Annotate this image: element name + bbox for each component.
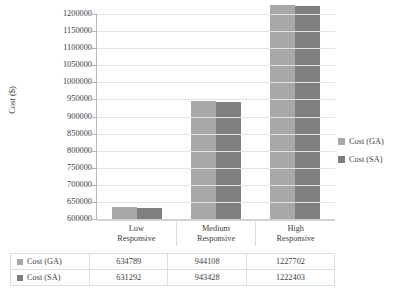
y-axis-tick-mark bbox=[92, 185, 96, 186]
y-axis-tick-label: 600000 bbox=[67, 215, 92, 223]
bar bbox=[295, 6, 320, 219]
y-axis-tick-label: 1100000 bbox=[63, 44, 92, 52]
y-axis-tick-label: 950000 bbox=[67, 95, 92, 103]
category-label-line: Low bbox=[129, 224, 144, 234]
category-label-line: Responsive bbox=[277, 234, 315, 244]
y-axis-tick-label: 750000 bbox=[67, 164, 92, 172]
gridline bbox=[97, 14, 335, 15]
gridline bbox=[97, 168, 335, 169]
bar bbox=[112, 207, 137, 219]
legend-item[interactable]: Cost (GA) bbox=[338, 137, 413, 146]
x-axis-category-labels: LowResponsiveMediumResponsiveHighRespons… bbox=[97, 220, 335, 246]
table-row-header-inner: Cost (SA) bbox=[17, 273, 85, 282]
gridline bbox=[97, 31, 335, 32]
gridline bbox=[97, 151, 335, 152]
y-axis-tick-mark bbox=[92, 134, 96, 135]
category-label-line: High bbox=[287, 224, 304, 234]
gridline bbox=[97, 134, 335, 135]
data-table-body: Cost (GA)6347899441081227702Cost (SA)631… bbox=[11, 254, 335, 286]
y-axis-tick-label: 1200000 bbox=[63, 10, 92, 18]
table-cell: 943428 bbox=[168, 270, 246, 286]
table-row-header: Cost (GA) bbox=[11, 254, 90, 270]
y-axis-tick-label: 850000 bbox=[67, 129, 92, 137]
y-axis-tick-mark bbox=[92, 65, 96, 66]
y-axis-tick-label: 1000000 bbox=[63, 78, 92, 86]
table-row-header: Cost (SA) bbox=[11, 270, 90, 286]
y-axis-tick-mark bbox=[92, 14, 96, 15]
y-axis-tick-mark bbox=[92, 219, 96, 220]
table-cell: 944108 bbox=[168, 254, 246, 270]
table-cell: 1227702 bbox=[246, 254, 334, 270]
gridline bbox=[97, 185, 335, 186]
y-axis-tick-label: 700000 bbox=[67, 181, 92, 189]
legend-swatch-icon bbox=[338, 156, 345, 163]
legend-label: Cost (SA) bbox=[349, 155, 382, 164]
legend-swatch-icon bbox=[338, 138, 345, 145]
category-label-line: Responsive bbox=[197, 234, 235, 244]
y-axis-tick-label: 800000 bbox=[67, 147, 92, 155]
legend-item[interactable]: Cost (SA) bbox=[338, 155, 413, 164]
plot-area: Cost ($) 6000006500007000007500008000008… bbox=[0, 0, 415, 245]
x-axis-category-label: LowResponsive bbox=[97, 221, 176, 246]
gridline bbox=[97, 65, 335, 66]
table-cell: 1222403 bbox=[246, 270, 334, 286]
bar bbox=[270, 5, 295, 219]
legend-label: Cost (GA) bbox=[349, 137, 384, 146]
table-cell: 634789 bbox=[90, 254, 168, 270]
series-swatch-icon bbox=[17, 275, 23, 281]
y-axis-tick-mark bbox=[92, 31, 96, 32]
category-label-line: Medium bbox=[202, 224, 230, 234]
y-axis-tick-mark bbox=[92, 82, 96, 83]
category-label-line: Responsive bbox=[117, 234, 155, 244]
bar bbox=[137, 208, 162, 219]
y-axis-title: Cost ($) bbox=[7, 55, 17, 145]
y-axis-tick-mark bbox=[92, 99, 96, 100]
gridline bbox=[97, 202, 335, 203]
y-axis-tick-label: 900000 bbox=[67, 112, 92, 120]
gridline bbox=[97, 82, 335, 83]
data-table: Cost (GA)6347899441081227702Cost (SA)631… bbox=[10, 253, 335, 286]
gridline bbox=[97, 99, 335, 100]
table-row-label: Cost (SA) bbox=[27, 273, 60, 282]
y-axis-tick-mark bbox=[92, 168, 96, 169]
table-cell: 631292 bbox=[90, 270, 168, 286]
table-row: Cost (SA)6312929434281222403 bbox=[11, 270, 335, 286]
y-axis-tick-label: 1150000 bbox=[63, 27, 92, 35]
table-row-header-inner: Cost (GA) bbox=[17, 257, 85, 266]
y-axis-tick-label: 650000 bbox=[67, 198, 92, 206]
x-axis-category-label: HighResponsive bbox=[255, 221, 335, 246]
y-axis-tick-mark bbox=[92, 151, 96, 152]
bar-chart: Cost ($) 6000006500007000007500008000008… bbox=[0, 0, 415, 308]
series-swatch-icon bbox=[17, 259, 23, 265]
y-axis-tick-label: 1050000 bbox=[63, 61, 92, 69]
x-axis-category-label: MediumResponsive bbox=[176, 221, 256, 246]
chart-legend: Cost (GA)Cost (SA) bbox=[338, 137, 413, 173]
y-axis-tick-mark bbox=[92, 202, 96, 203]
y-axis-tick-mark bbox=[92, 48, 96, 49]
y-axis-tick-mark bbox=[92, 117, 96, 118]
gridline bbox=[97, 117, 335, 118]
table-row: Cost (GA)6347899441081227702 bbox=[11, 254, 335, 270]
plot-canvas bbox=[97, 14, 335, 219]
table-row-label: Cost (GA) bbox=[27, 257, 62, 266]
y-axis-tick-labels: 6000006500007000007500008000008500009000… bbox=[52, 0, 95, 245]
gridline bbox=[97, 48, 335, 49]
